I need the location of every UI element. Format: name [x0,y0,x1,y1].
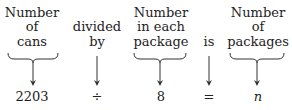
brace-icon [8,53,58,63]
braces-and-arrows [0,0,292,110]
brace-icon [134,53,186,63]
brace-icon [230,53,284,63]
